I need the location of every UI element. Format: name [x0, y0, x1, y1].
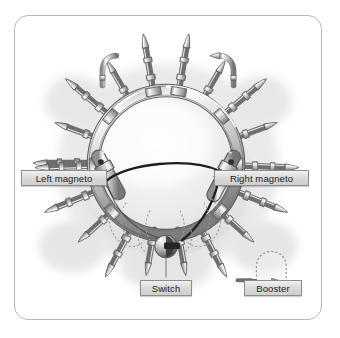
figure-frame: Left magneto Right magneto Switch Booste…: [14, 15, 322, 320]
ignition-harness-diagram: [15, 16, 321, 319]
callout-switch[interactable]: Switch: [140, 280, 192, 296]
callout-left-magneto[interactable]: Left magneto: [21, 170, 107, 186]
callout-right-magneto[interactable]: Right magneto: [214, 170, 309, 186]
callout-booster[interactable]: Booster: [244, 280, 302, 296]
